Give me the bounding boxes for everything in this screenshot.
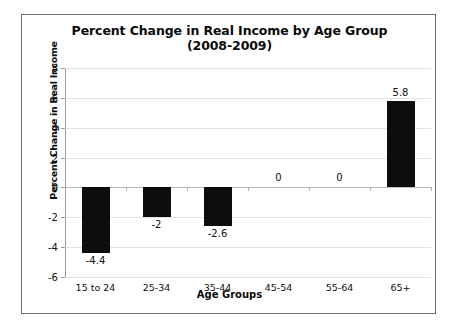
y-tick-mark-4: [61, 128, 65, 129]
gridline--2: [65, 217, 431, 218]
chart-title-line-1: Percent Change in Real Income by Age Gro…: [72, 23, 388, 38]
x-tick-mark-0: [65, 187, 66, 191]
y-tick-label-8: 8: [52, 63, 58, 74]
x-axis-title: Age Groups: [22, 289, 436, 300]
x-tick-mark-4: [309, 187, 310, 191]
plot-area: 86420-2-4-6 -4.4-2-2.6005.8 15 to 2425-3…: [65, 68, 431, 277]
y-tick-label--2: -2: [48, 212, 58, 223]
gridline-2: [65, 158, 431, 159]
y-tick-mark-8: [61, 68, 65, 69]
y-tick-mark--4: [61, 247, 65, 248]
bar-15-to-24[interactable]: [82, 187, 110, 253]
gridline-8: [65, 68, 431, 69]
bar-value-label-45-54: 0: [275, 172, 281, 183]
chart-title: Percent Change in Real Income by Age Gro…: [22, 23, 436, 53]
y-tick-label-6: 6: [52, 92, 58, 103]
gridline-4: [65, 128, 431, 129]
x-tick-mark-2: [187, 187, 188, 191]
x-tick-mark-3: [248, 187, 249, 191]
y-tick-label-0: 0: [52, 182, 58, 193]
y-tick-mark--6: [61, 277, 65, 278]
y-tick-mark-2: [61, 158, 65, 159]
chart-frame: Percent Change in Real Income by Age Gro…: [21, 14, 436, 314]
bar-value-label-55-64: 0: [336, 172, 342, 183]
y-tick-label--4: -4: [48, 242, 58, 253]
y-axis-line: [65, 68, 66, 277]
gridline-6: [65, 98, 431, 99]
chart-title-line-2: (2008-2009): [22, 38, 436, 53]
y-tick-label-4: 4: [52, 122, 58, 133]
y-tick-mark--2: [61, 217, 65, 218]
y-tick-label--6: -6: [48, 272, 58, 283]
x-tick-mark-1: [126, 187, 127, 191]
x-tick-mark-5: [370, 187, 371, 191]
bar-value-label-35-44: -2.6: [208, 228, 228, 239]
bar-25-34[interactable]: [143, 187, 171, 217]
gridline--4: [65, 247, 431, 248]
bar-value-label-15-to-24: -4.4: [86, 255, 106, 266]
y-tick-label-2: 2: [52, 152, 58, 163]
gridline--6: [65, 277, 431, 278]
bar-value-label-65+: 5.8: [393, 87, 409, 98]
bar-35-44[interactable]: [204, 187, 232, 226]
bar-value-label-25-34: -2: [152, 219, 162, 230]
x-tick-mark-6: [431, 187, 432, 191]
bar-65+[interactable]: [387, 101, 415, 188]
y-tick-mark-6: [61, 98, 65, 99]
